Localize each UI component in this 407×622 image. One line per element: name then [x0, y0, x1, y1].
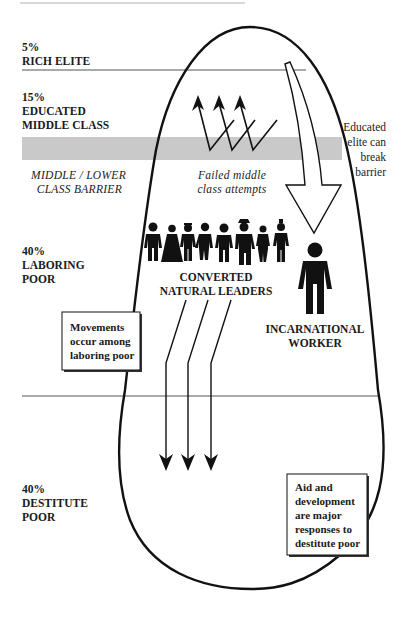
svg-text:DESTITUTE: DESTITUTE — [22, 497, 88, 509]
svg-text:barrier: barrier — [355, 166, 386, 178]
society-egg-diagram: Movements occur among laboring poor Aid … — [0, 0, 407, 622]
stratum-label-educated-middle-class: 15% EDUCATED MIDDLE CLASS — [22, 91, 109, 131]
person-icon — [235, 219, 255, 265]
person-icon — [180, 223, 196, 261]
stratum-label-rich-elite: 5% RICH ELITE — [22, 41, 90, 67]
svg-text:elite can: elite can — [347, 136, 386, 148]
barrier-label: MIDDLE / LOWER CLASS BARRIER — [30, 169, 126, 195]
svg-text:LABORING: LABORING — [22, 259, 85, 271]
svg-text:CLASS BARRIER: CLASS BARRIER — [37, 183, 122, 195]
svg-text:5%: 5% — [22, 41, 39, 53]
educated-elite-note: Educated elite can break barrier — [343, 121, 386, 178]
svg-text:WORKER: WORKER — [288, 337, 342, 349]
person-icon — [161, 225, 183, 262]
svg-text:15%: 15% — [22, 91, 45, 103]
person-icon — [215, 224, 233, 263]
converted-leaders-label: CONVERTED NATURAL LEADERS — [160, 271, 273, 297]
stratum-label-destitute-poor: 40% DESTITUTE POOR — [22, 483, 88, 523]
failed-attempts-label: Failed middle class attempts — [197, 169, 267, 196]
movements-callout: Movements occur among laboring poor — [62, 312, 142, 372]
aid-callout: Aid and development are major responses … — [287, 474, 369, 557]
svg-text:MIDDLE / LOWER: MIDDLE / LOWER — [30, 169, 126, 181]
aid-line-1: Aid and — [295, 481, 333, 493]
svg-text:POOR: POOR — [22, 511, 56, 523]
svg-text:40%: 40% — [22, 245, 45, 257]
incarnational-worker-label: INCARNATIONAL WORKER — [266, 323, 365, 349]
aid-line-2: development — [295, 495, 355, 507]
svg-text:INCARNATIONAL: INCARNATIONAL — [266, 323, 365, 335]
movements-line-1: Movements — [70, 321, 125, 333]
stratum-label-laboring-poor: 40% LABORING POOR — [22, 245, 85, 285]
svg-text:Educated: Educated — [343, 121, 386, 133]
svg-text:NATURAL LEADERS: NATURAL LEADERS — [160, 285, 273, 297]
svg-text:break: break — [360, 151, 386, 163]
person-icon — [273, 219, 289, 262]
svg-text:40%: 40% — [22, 483, 45, 495]
aid-line-5: destitute poor — [295, 537, 360, 549]
svg-text:EDUCATED: EDUCATED — [22, 105, 86, 117]
svg-text:CONVERTED: CONVERTED — [179, 271, 252, 283]
movements-line-2: occur among — [70, 335, 131, 347]
person-icon — [144, 223, 162, 262]
person-icon — [256, 226, 270, 263]
aid-line-4: responses to — [295, 523, 352, 535]
movements-line-3: laboring poor — [70, 349, 135, 361]
class-barrier-band — [22, 137, 342, 160]
leaders-influence-arrows — [159, 300, 231, 471]
incarnational-worker-figure — [298, 243, 332, 315]
svg-text:POOR: POOR — [22, 273, 56, 285]
aid-line-3: are major — [295, 509, 342, 521]
converted-leaders-figures — [144, 219, 289, 265]
svg-text:MIDDLE CLASS: MIDDLE CLASS — [22, 119, 109, 131]
svg-text:class attempts: class attempts — [197, 183, 266, 196]
svg-text:RICH ELITE: RICH ELITE — [22, 55, 90, 67]
svg-text:Failed middle: Failed middle — [197, 169, 266, 181]
person-icon — [195, 223, 213, 260]
